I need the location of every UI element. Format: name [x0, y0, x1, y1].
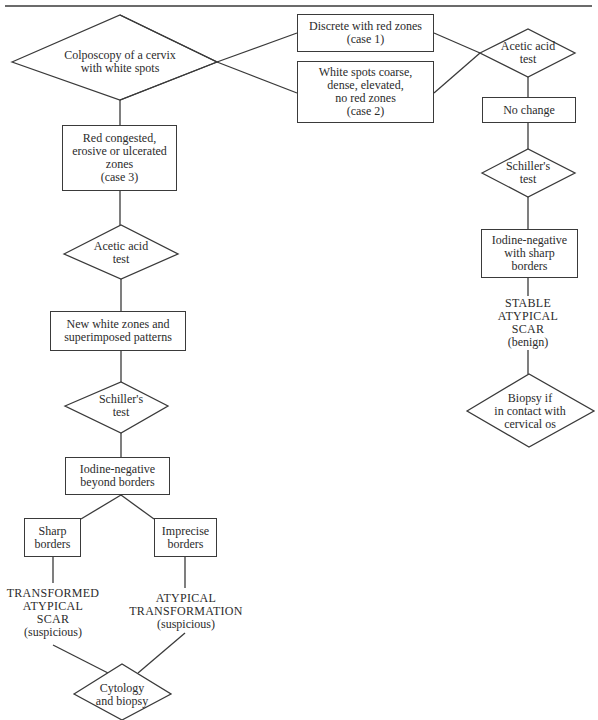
outcome-note: (suspicious) [24, 626, 82, 639]
outcome-title: TRANSFORMED ATYPICAL SCAR [7, 587, 100, 626]
outcome-stable-atypical-scar: STABLE ATYPICAL SCAR (benign) [478, 296, 578, 350]
outcome-title: ATYPICAL TRANSFORMATION [129, 592, 243, 618]
box-no-change: No change [482, 97, 576, 123]
decision-acetic-acid-left: Acetic acid test [76, 239, 166, 267]
outcome-note: (suspicious) [157, 618, 215, 631]
box-case-2: White spots coarse, dense, elevated, no … [297, 61, 434, 123]
outcome-title: STABLE ATYPICAL SCAR [498, 297, 558, 336]
box-case-3: Red congested, erosive or ulcerated zone… [62, 125, 177, 191]
outcome-transformed-atypical-scar: TRANSFORMED ATYPICAL SCAR (suspicious) [0, 583, 106, 643]
box-sharp-borders: Sharp borders [24, 518, 81, 557]
outcome-atypical-transformation: ATYPICAL TRANSFORMATION (suspicious) [125, 590, 247, 632]
box-iodine-negative-sharp: Iodine-negative with sharp borders [481, 229, 578, 278]
decision-cytology-biopsy: Cytology and biopsy [82, 681, 162, 709]
decision-colposcopy: Colposcopy of a cervix with white spots [40, 44, 200, 80]
outcome-note: (benign) [508, 336, 549, 349]
decision-biopsy-if: Biopsy if in contact with cervical os [475, 390, 585, 432]
box-new-white-zones: New white zones and superimposed pattern… [50, 311, 186, 351]
decision-schiller-right: Schiller's test [486, 159, 570, 187]
box-iodine-negative-beyond: Iodine-negative beyond borders [65, 457, 170, 495]
box-case-1: Discrete with red zones (case 1) [297, 14, 434, 52]
box-imprecise-borders: Imprecise borders [154, 518, 217, 557]
decision-schiller-left: Schiller's test [76, 392, 166, 420]
decision-acetic-acid-right: Acetic acid test [486, 39, 570, 67]
